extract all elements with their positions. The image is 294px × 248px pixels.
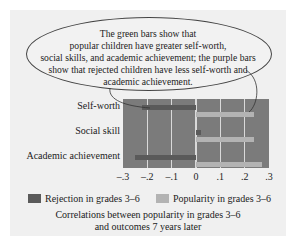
x-tick-label: .3: [265, 171, 273, 182]
x-tick-label: .2: [241, 171, 249, 182]
x-tick-label: –.3: [117, 171, 130, 182]
legend-swatch-rejection: [28, 194, 41, 203]
x-tick-label: 0: [194, 171, 199, 182]
x-tick-label: .1: [217, 171, 225, 182]
caption-line-2: and outcomes 7 years later: [10, 221, 286, 233]
chart-caption: Correlations between popularity in grade…: [10, 209, 286, 233]
legend-item-rejection: Rejection in grades 3–6: [28, 193, 140, 204]
x-tick-label: –.2: [141, 171, 154, 182]
x-tick-label: –.1: [165, 171, 178, 182]
legend-label-popularity: Popularity in grades 3–6: [173, 193, 271, 204]
caption-line-1: Correlations between popularity in grade…: [10, 209, 286, 221]
legend-label-rejection: Rejection in grades 3–6: [45, 193, 140, 204]
legend-item-popularity: Popularity in grades 3–6: [156, 193, 271, 204]
legend-swatch-popularity: [156, 194, 169, 203]
